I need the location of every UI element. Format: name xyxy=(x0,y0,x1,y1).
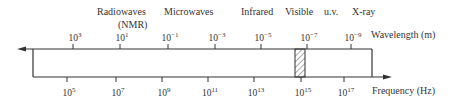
region-microwaves: Microwaves xyxy=(164,6,213,17)
region-uv: u.v. xyxy=(324,6,338,17)
wavelength-tick-label: 10−9 xyxy=(345,31,362,43)
region-infrared: Infrared xyxy=(241,6,273,17)
frequency-tick-label: 1015 xyxy=(295,86,312,98)
frequency-tick-label: 1013 xyxy=(248,86,265,98)
region-xray: X-ray xyxy=(352,6,375,17)
wavelength-axis-label: Wavelength (m) xyxy=(371,29,435,40)
wavelength-arrow-icon xyxy=(17,47,26,52)
wavelength-tick-label: 10−3 xyxy=(209,31,226,43)
wavelength-tick-label: 103 xyxy=(69,31,82,43)
wavelength-tick-label: 10−5 xyxy=(255,31,272,43)
visible-band xyxy=(295,49,305,77)
frequency-tick-label: 105 xyxy=(63,86,76,98)
region-visible: Visible xyxy=(285,6,313,17)
region-radiowaves: Radiowaves xyxy=(97,6,146,17)
region-radiowaves-sub: (NMR) xyxy=(118,19,147,30)
frequency-axis-label: Frequency (Hz) xyxy=(372,85,435,96)
frequency-arrow-icon xyxy=(383,75,392,80)
wavelength-tick-label: 10−1 xyxy=(162,31,179,43)
frequency-tick-label: 109 xyxy=(158,86,171,98)
frequency-tick-label: 107 xyxy=(112,86,125,98)
wavelength-tick-label: 10−7 xyxy=(301,31,318,43)
wavelength-tick-label: 101 xyxy=(116,31,129,43)
frequency-tick-label: 1017 xyxy=(338,86,355,98)
frequency-tick-label: 1011 xyxy=(202,86,218,98)
